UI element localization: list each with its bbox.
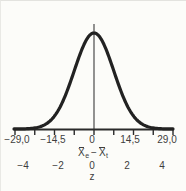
normal-distribution-figure: −29,0 −14,5 0 14,5 29,0 Xe−Xt −4 −2 0 2 … [0, 0, 186, 191]
z-tick-label: 2 [124, 160, 130, 171]
diff-tick-label: 29,0 [157, 134, 176, 145]
subscript-t: t [106, 152, 108, 159]
diff-axis-label: Xe−Xt [78, 147, 108, 159]
diff-tick-label: −14,5 [40, 134, 65, 145]
z-tick-label: −4 [17, 160, 28, 171]
diff-tick-label: −29,0 [4, 134, 29, 145]
z-axis-label: z [90, 171, 95, 182]
diff-tick-label: 14,5 [120, 134, 139, 145]
xbar-e: X [78, 147, 85, 158]
subscript-e: e [85, 152, 89, 159]
z-tick-label: 0 [89, 160, 95, 171]
minus-sign: − [89, 147, 99, 158]
z-tick-label: 4 [159, 160, 165, 171]
diff-tick-label: 0 [89, 134, 95, 145]
z-tick-label: −2 [52, 160, 63, 171]
xbar-t: X [99, 147, 106, 158]
